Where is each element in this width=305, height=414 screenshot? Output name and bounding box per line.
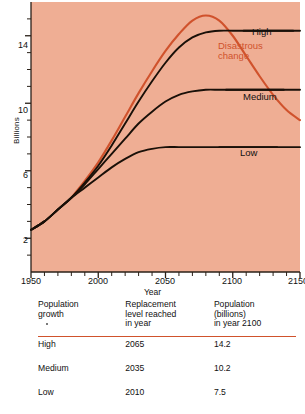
table-header-growth: Population growth (38, 300, 125, 332)
cell-population-2100: 7.5 (214, 380, 296, 404)
cell-replacement-year: 2010 (125, 380, 214, 404)
header-artifact-dot (46, 323, 48, 325)
header-line: (billions) (214, 309, 246, 319)
x-tick-label: 1950 (11, 276, 51, 286)
table-header-population: Population (billions) in year 2100 (214, 300, 296, 332)
cell-population-2100: 10.2 (214, 356, 296, 380)
chart: Billions 14 10 6 2 1950 2000 2050 2100 2… (0, 0, 305, 296)
header-line: in year 2100 (214, 318, 261, 328)
cell-replacement-year: 2035 (125, 356, 214, 380)
x-tick-label: 2000 (78, 276, 118, 286)
header-line: level reached (125, 309, 176, 319)
table-divider-rule (38, 336, 296, 337)
x-tick-label: 2150 (278, 276, 305, 286)
summary-table-area: Population growth Replacement level reac… (0, 296, 305, 414)
table-header-row: Population growth Replacement level reac… (38, 300, 296, 332)
header-line: Population (214, 299, 255, 309)
cell-growth: Medium (38, 356, 125, 380)
table-row: Medium 2035 10.2 (38, 356, 296, 380)
series-label-medium: Medium (243, 91, 277, 102)
table-row: Low 2010 7.5 (38, 380, 296, 404)
y-tick-label: 10 (10, 105, 28, 115)
y-tick-labels: 14 10 6 2 (6, 0, 28, 272)
y-tick-label: 2 (10, 235, 28, 245)
x-tick-label: 2100 (212, 276, 252, 286)
table-header-replacement: Replacement level reached in year (125, 300, 214, 332)
caption-artifact (4, 407, 6, 414)
series-label-disastrous-line2: change (218, 51, 249, 62)
cell-growth: Low (38, 380, 125, 404)
summary-table: Population growth Replacement level reac… (38, 300, 296, 404)
header-line: Population (38, 299, 79, 309)
population-projection-figure: Billions 14 10 6 2 1950 2000 2050 2100 2… (0, 0, 305, 414)
header-line: growth (38, 309, 64, 319)
series-label-high: High (252, 26, 272, 37)
y-tick-label: 14 (10, 40, 28, 50)
series-label-low: Low (240, 147, 257, 158)
header-line: in year (125, 318, 151, 328)
y-tick-label: 6 (10, 170, 28, 180)
header-line: Replacement (125, 299, 176, 309)
x-tick-label: 2050 (145, 276, 185, 286)
